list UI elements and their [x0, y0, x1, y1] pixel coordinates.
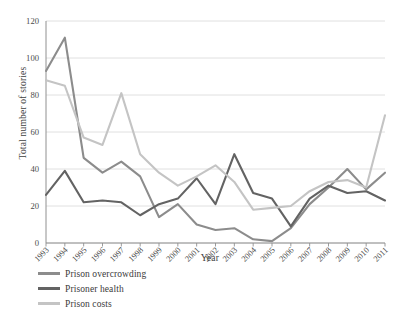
x-axis-tick-label: 2007 [296, 246, 314, 264]
legend-swatch-icon [38, 272, 60, 275]
x-axis-tick-label: 1996 [89, 246, 107, 264]
x-axis-tick-label: 2008 [315, 246, 333, 264]
y-axis-tick-label: 0 [35, 238, 39, 248]
x-axis-tick-label: 1997 [108, 246, 126, 264]
series-line [46, 38, 385, 242]
x-axis-tick-label: 1994 [52, 245, 71, 264]
y-axis-tick-label: 80 [30, 90, 39, 100]
y-axis-tick-label: 100 [26, 53, 39, 63]
chart-legend: Prison overcrowding Prisoner health Pris… [38, 266, 298, 311]
legend-item-label: Prison overcrowding [65, 269, 146, 279]
x-axis-tick-label: 2009 [334, 246, 352, 264]
x-axis-tick-label: 2011 [372, 246, 390, 264]
legend-item-label: Prisoner health [65, 284, 124, 294]
legend-item-prison-costs: Prison costs [38, 296, 298, 311]
y-axis-tick-label: 40 [30, 164, 39, 174]
legend-swatch-icon [38, 287, 60, 290]
x-axis-tick-label: 2006 [278, 246, 296, 264]
chart-container: 0204060801001201993199419951996199719981… [0, 0, 408, 322]
x-axis-tick-label: 1993 [33, 246, 51, 264]
x-axis-title: Year [150, 253, 270, 263]
legend-item-prisoner-health: Prisoner health [38, 281, 298, 296]
legend-swatch-icon [38, 302, 60, 305]
legend-item-label: Prison costs [65, 299, 112, 309]
x-axis-tick-label: 2010 [353, 246, 371, 264]
y-axis-tick-label: 120 [26, 16, 39, 26]
y-axis-tick-label: 20 [30, 201, 39, 211]
x-axis-tick-label: 1998 [127, 246, 145, 264]
y-axis-title: Total number of stories [18, 38, 28, 188]
y-axis-tick-label: 60 [30, 127, 39, 137]
series-line [46, 80, 385, 210]
legend-item-prison-overcrowding: Prison overcrowding [38, 266, 298, 281]
x-axis-tick-label: 1995 [70, 246, 88, 264]
